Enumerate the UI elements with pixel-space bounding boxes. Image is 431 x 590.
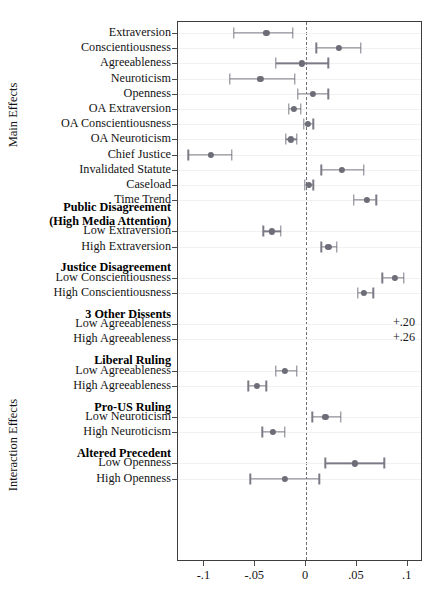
ci-lower-cap xyxy=(247,380,248,391)
point-estimate-marker xyxy=(325,243,331,249)
point-estimate-marker xyxy=(268,228,274,234)
row-label: OA Conscientiousness xyxy=(61,116,171,131)
y-axis-tick xyxy=(172,417,178,418)
section-header: Altered Precedent xyxy=(77,447,171,461)
row-label: Extraversion xyxy=(109,25,171,40)
ci-lower-cap xyxy=(262,427,263,438)
plot-area: ExtraversionConscientiousnessAgreeablene… xyxy=(177,21,422,561)
point-estimate-marker xyxy=(310,91,316,97)
ci-upper-cap xyxy=(284,427,285,438)
axis-group-caption-interaction-effects-label: Interaction Effects xyxy=(6,399,21,491)
x-axis: -.1-.050.05.1 xyxy=(177,561,422,589)
ci-upper-cap xyxy=(319,473,320,484)
row-rule xyxy=(178,231,421,232)
y-axis-tick xyxy=(172,463,178,464)
ci-lower-cap xyxy=(275,58,276,69)
ci-upper-cap xyxy=(384,458,385,469)
ci-upper-cap xyxy=(313,119,314,130)
point-estimate-marker xyxy=(207,151,213,157)
ci-lower-cap xyxy=(325,458,326,469)
row-rule xyxy=(178,386,421,387)
point-estimate-marker xyxy=(336,45,342,51)
row-rule xyxy=(178,293,421,294)
ci-upper-cap xyxy=(336,241,337,252)
ci-upper-cap xyxy=(340,412,341,423)
offscale-value-label: +.20 xyxy=(393,315,415,330)
estimate-row: Low Extraversion xyxy=(178,231,421,232)
y-axis-tick xyxy=(172,339,178,340)
x-axis-tick-label: 0 xyxy=(302,568,308,583)
y-axis-tick xyxy=(172,432,178,433)
estimate-row: Low Agreeableness+.20 xyxy=(178,324,421,325)
estimate-row: Agreeableness xyxy=(178,63,421,64)
row-label: Agreeableness xyxy=(100,55,171,70)
estimate-row: Extraversion xyxy=(178,33,421,34)
x-axis-tick xyxy=(356,561,357,566)
row-rule xyxy=(178,432,421,433)
ci-lower-cap xyxy=(288,104,289,115)
ci-lower-cap xyxy=(316,43,317,54)
row-label: OA Neuroticism xyxy=(91,131,171,146)
ci-lower-cap xyxy=(321,164,322,175)
ci-lower-cap xyxy=(297,88,298,99)
section-header: 3 Other Dissents xyxy=(85,308,171,322)
ci-lower-cap xyxy=(275,365,276,376)
ci-lower-cap xyxy=(382,272,383,283)
ci-upper-cap xyxy=(294,73,295,84)
row-label: High Agreeableness xyxy=(73,378,171,393)
estimate-row: OA Extraversion xyxy=(178,109,421,110)
ci-lower-cap xyxy=(353,195,354,206)
ci-upper-cap xyxy=(231,149,232,160)
estimate-row: OA Conscientiousness xyxy=(178,124,421,125)
point-estimate-marker xyxy=(299,60,305,66)
row-label: Neuroticism xyxy=(111,71,171,86)
row-rule xyxy=(178,124,421,125)
row-label: High Conscientiousness xyxy=(54,285,171,300)
ci-upper-cap xyxy=(292,28,293,39)
y-axis-tick xyxy=(172,479,178,480)
ci-lower-cap xyxy=(263,226,264,237)
y-axis-tick xyxy=(172,278,178,279)
x-axis-tick xyxy=(305,561,306,566)
y-axis-tick xyxy=(172,33,178,34)
ci-upper-cap xyxy=(300,104,301,115)
ci-lower-cap xyxy=(321,241,322,252)
row-label: High Openness xyxy=(96,471,171,486)
y-axis-tick xyxy=(172,139,178,140)
ci-upper-cap xyxy=(328,58,329,69)
x-axis-tick xyxy=(254,561,255,566)
row-label: Invalidated Statute xyxy=(79,162,171,177)
ci-lower-cap xyxy=(233,28,234,39)
row-label: OA Extraversion xyxy=(89,101,171,116)
point-estimate-marker xyxy=(364,197,370,203)
ci-lower-cap xyxy=(249,473,250,484)
y-axis-tick xyxy=(172,124,178,125)
row-rule xyxy=(178,324,421,325)
axis-group-caption-main-effects-label: Main Effects xyxy=(6,83,21,148)
point-estimate-marker xyxy=(263,30,269,36)
estimate-row: High Conscientiousness xyxy=(178,293,421,294)
ci-upper-cap xyxy=(296,365,297,376)
y-axis-tick xyxy=(172,109,178,110)
x-axis-tick xyxy=(407,561,408,566)
point-estimate-marker xyxy=(339,167,345,173)
section-header-line: Altered Precedent xyxy=(77,447,171,461)
x-axis-tick xyxy=(203,561,204,566)
y-axis-tick xyxy=(172,185,178,186)
section-header-line: (High Media Attention) xyxy=(49,215,171,229)
point-estimate-marker xyxy=(361,290,367,296)
y-axis-tick xyxy=(172,247,178,248)
section-header: Justice Disagreement xyxy=(61,261,171,275)
section-header-line: Justice Disagreement xyxy=(61,261,171,275)
row-rule xyxy=(178,200,421,201)
ci-lower-cap xyxy=(187,149,188,160)
row-rule xyxy=(178,371,421,372)
y-axis-tick xyxy=(172,79,178,80)
row-rule xyxy=(178,185,421,186)
row-label: High Extraversion xyxy=(81,239,171,254)
ci-lower-cap xyxy=(229,73,230,84)
ci-lower-cap xyxy=(357,288,358,299)
estimate-row: Low Conscientiousness xyxy=(178,278,421,279)
y-axis-tick xyxy=(172,386,178,387)
row-label: High Agreeableness xyxy=(73,331,171,346)
